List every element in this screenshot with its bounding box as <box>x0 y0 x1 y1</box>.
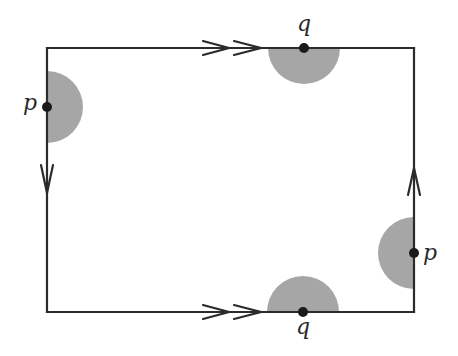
half-disk-p-right <box>378 217 414 289</box>
rectangle-edges <box>47 48 414 312</box>
identification-diagram: p q p q <box>0 0 458 356</box>
half-disk-q-top <box>268 48 340 84</box>
point-p-right <box>409 248 419 258</box>
point-q-top <box>299 43 309 53</box>
point-labels: p q p q <box>23 11 437 339</box>
half-disk-q-bottom <box>267 276 339 312</box>
point-p-left <box>42 102 52 112</box>
label-q-bottom: q <box>296 314 310 339</box>
label-p-left: p <box>23 90 37 115</box>
vertices <box>42 43 419 317</box>
label-p-right: p <box>423 240 437 265</box>
label-q-top: q <box>297 11 311 36</box>
edge-arrows <box>41 41 420 319</box>
half-disk-neighborhoods <box>47 48 414 312</box>
half-disk-p-left <box>47 71 83 143</box>
